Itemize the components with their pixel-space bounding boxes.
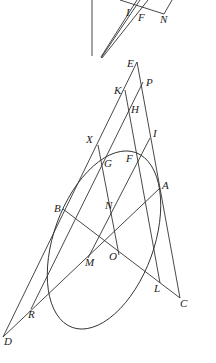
point-l-label: L	[153, 282, 160, 294]
inset-label-f: F	[137, 11, 145, 23]
geometry-diagram: I F N E P K H I X G F A B N O M L C R D	[0, 0, 216, 363]
point-m-label: M	[84, 256, 95, 268]
point-h-label: H	[130, 103, 140, 115]
point-p-label: P	[145, 76, 153, 88]
point-g-label: G	[104, 157, 112, 169]
point-f-label: F	[125, 152, 133, 164]
point-x-label: X	[85, 133, 94, 145]
inset-fragment	[92, 0, 172, 58]
inset-label-n: N	[159, 13, 168, 25]
point-c-label: C	[180, 297, 188, 309]
point-b-label: B	[54, 202, 61, 214]
point-o-label: O	[109, 250, 117, 262]
point-a-label: A	[161, 179, 169, 191]
point-i-label: I	[152, 127, 158, 139]
point-r-label: R	[27, 308, 35, 320]
inset-label-i: I	[125, 6, 131, 18]
point-d-label: D	[3, 335, 12, 347]
point-n-label: N	[104, 199, 113, 211]
point-k-label: K	[113, 84, 122, 96]
point-e-label: E	[126, 57, 134, 69]
construction-lines	[3, 62, 180, 337]
